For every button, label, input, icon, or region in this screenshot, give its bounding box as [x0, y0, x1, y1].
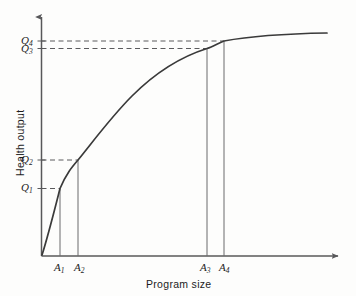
- x-tick-label-a4: A4: [219, 262, 229, 273]
- chart-figure: Q4 Q3 Q2 Q1 A1 A2 A3 A4 Health output Pr…: [0, 0, 356, 296]
- x-tick-label-a1: A1: [54, 262, 64, 273]
- y-axis-title: Health output: [14, 110, 26, 176]
- x-axis-title: Program size: [146, 278, 211, 290]
- x-tick-label-a3: A3: [200, 262, 210, 273]
- y-tick-label-q3: Q3: [21, 43, 33, 54]
- x-tick-label-a2: A2: [74, 262, 84, 273]
- y-tick-label-q1: Q1: [21, 182, 33, 193]
- health-production-curve: [42, 33, 327, 255]
- chart-plot-area: [0, 0, 356, 296]
